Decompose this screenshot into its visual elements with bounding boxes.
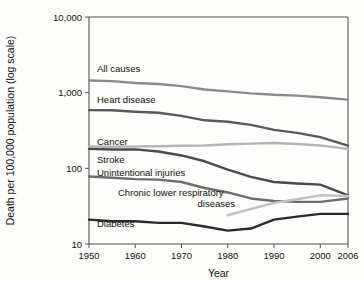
series-label-all-causes: All causes: [97, 63, 141, 74]
x-tick-label: 2006: [337, 250, 358, 261]
series-label-unintentional-injuries: Unintentional injuries: [97, 167, 185, 178]
y-tick-label: 10: [71, 239, 82, 250]
series-label-cancer: Cancer: [97, 136, 128, 147]
x-tick-label: 1970: [171, 250, 192, 261]
y-tick-label: 100: [66, 163, 82, 174]
series-label-chronic-lower-respiratory-diseases: Chronic lower respiratory: [118, 187, 224, 198]
y-tick-label: 1,000: [58, 87, 82, 98]
x-tick-label: 1950: [78, 250, 99, 261]
y-tick-label: 10,000: [53, 12, 82, 23]
x-axis-title: Year: [208, 267, 230, 279]
death-rate-line-chart: 10,0001,00010010195019601970198019902000…: [0, 0, 364, 281]
x-tick-label: 1960: [125, 250, 146, 261]
series-label-chronic-lower-respiratory-diseases-line2: diseases: [198, 198, 236, 209]
series-label-heart-disease: Heart disease: [97, 94, 156, 105]
y-axis-title: Death per 100,000 population (log scale): [4, 36, 16, 226]
chart-canvas: 10,0001,00010010195019601970198019902000…: [0, 0, 364, 281]
series-label-diabetes: Diabetes: [97, 218, 135, 229]
x-tick-label: 1980: [217, 250, 238, 261]
x-tick-label: 2000: [310, 250, 331, 261]
series-line-cancer: [89, 143, 348, 149]
series-label-stroke: Stroke: [97, 154, 124, 165]
x-tick-label: 1990: [263, 250, 284, 261]
series-line-heart-disease: [89, 110, 348, 145]
